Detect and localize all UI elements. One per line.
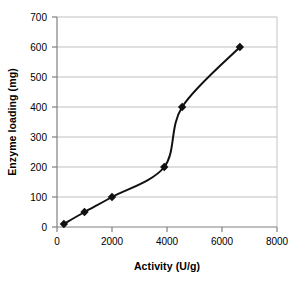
line-chart: 700 600 500 400 300 200 100 0 0 2000 400… xyxy=(0,0,301,282)
y-tick-label-400: 400 xyxy=(30,102,47,113)
x-tick-label-4000: 4000 xyxy=(156,236,179,247)
y-tick-label-200: 200 xyxy=(30,162,47,173)
x-tick-label-2000: 2000 xyxy=(101,236,124,247)
x-tick-label-0: 0 xyxy=(54,236,60,247)
x-axis-title: Activity (U/g) xyxy=(134,260,200,272)
y-tick-label-500: 500 xyxy=(30,72,47,83)
y-tick-label-100: 100 xyxy=(30,192,47,203)
chart-container: 700 600 500 400 300 200 100 0 0 2000 400… xyxy=(0,0,301,282)
x-tick-label-6000: 6000 xyxy=(211,236,234,247)
x-tick-label-8000: 8000 xyxy=(266,236,289,247)
y-tick-label-300: 300 xyxy=(30,132,47,143)
y-tick-label-600: 600 xyxy=(30,42,47,53)
y-tick-label-0: 0 xyxy=(41,222,47,233)
y-tick-label-700: 700 xyxy=(30,12,47,23)
y-axis-title: Enzyme loading (mg) xyxy=(6,68,18,176)
